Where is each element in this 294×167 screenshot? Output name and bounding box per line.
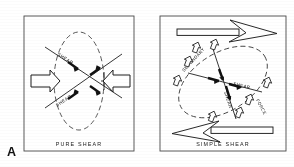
pure-shear-caption: PURE SHEAR <box>56 141 103 147</box>
panel-simple-shear: SHEAR SHEAR SECONDARY FORCE <box>160 16 286 151</box>
figure-label: A <box>7 145 16 159</box>
panel-pure-shear: SHEAR SHEAR PURE SHEAR <box>24 16 134 151</box>
figure-svg: SHEAR SHEAR PURE SHEAR <box>0 0 294 167</box>
simple-shear-caption: SIMPLE SHEAR <box>196 141 250 147</box>
figure-container: SHEAR SHEAR PURE SHEAR <box>0 0 294 167</box>
